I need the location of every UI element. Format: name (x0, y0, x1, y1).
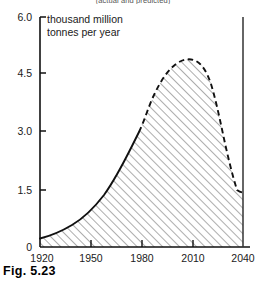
x-tick-label-1980: 1980 (130, 252, 153, 264)
chart-plot-area (0, 0, 266, 258)
x-tick-label-2010: 2010 (181, 252, 204, 264)
x-tick-label-1950: 1950 (79, 252, 102, 264)
x-tick-label-2040: 2040 (231, 252, 254, 264)
figure-oil-production: (actual and predicted) 6.0 4.5 3.0 1.5 0… (0, 0, 266, 282)
x-tick-label-1920: 1920 (30, 252, 53, 264)
figure-caption: Fig. 5.23 (3, 264, 56, 278)
